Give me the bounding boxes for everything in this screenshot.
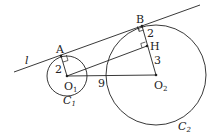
label-c1: C1 <box>63 94 76 108</box>
label-line-l: l <box>25 54 29 67</box>
tangent-line-l <box>14 5 200 72</box>
label-o1: O1 <box>64 80 78 94</box>
segment-o1-h <box>67 46 147 76</box>
label-a: A <box>55 43 65 56</box>
label-length-bh: 2 <box>147 27 154 40</box>
point-o2 <box>155 74 158 77</box>
label-length-o1a: 2 <box>55 63 62 76</box>
label-b: B <box>136 13 144 26</box>
label-o2: O2 <box>154 79 168 93</box>
label-length-o1o2: 9 <box>98 77 105 90</box>
point-h <box>146 45 149 48</box>
point-o1 <box>66 75 69 78</box>
geometry-diagram: l A B H O1 O2 2 2 3 9 C1 C2 <box>0 0 213 139</box>
label-c2: C2 <box>178 120 191 134</box>
label-length-ho2: 3 <box>154 54 161 67</box>
label-h: H <box>150 40 160 53</box>
segment-o1-o2 <box>67 75 156 76</box>
